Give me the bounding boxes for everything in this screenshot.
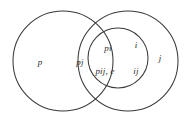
region-label-ij: ij <box>133 67 138 76</box>
circle-p-outline <box>13 11 113 111</box>
region-label-pi: pi <box>104 44 111 53</box>
region-label-pij-e: pij, e <box>95 67 114 76</box>
region-label-p: p <box>38 58 43 67</box>
venn-diagram-svg <box>0 0 193 123</box>
region-label-pj: pj <box>76 58 83 67</box>
region-label-j: j <box>159 54 162 63</box>
region-label-i: i <box>135 41 138 50</box>
venn-diagram: p pj pi pij, e i ij j <box>0 0 193 123</box>
circle-j-outline <box>78 11 178 111</box>
circle-i-outline <box>88 28 148 88</box>
